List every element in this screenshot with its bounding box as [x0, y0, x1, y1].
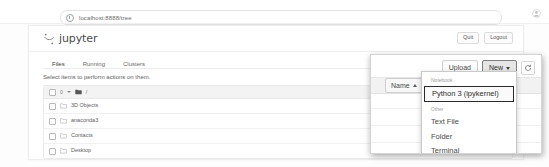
file-name[interactable]: anaconda3: [71, 118, 98, 124]
quit-button[interactable]: Quit: [457, 32, 479, 44]
chevron-down-icon[interactable]: [67, 91, 71, 93]
menu-item-text-file[interactable]: Text File: [422, 115, 516, 129]
folder-icon: [60, 103, 67, 109]
refresh-icon[interactable]: [521, 61, 535, 75]
menu-group-notebook: Notebook: [422, 75, 516, 86]
jupyter-header: jupyter Quit Logout: [29, 26, 523, 52]
menu-item-python3[interactable]: Python 3 (ipykernel): [424, 86, 514, 102]
folder-icon: [60, 148, 67, 154]
jupyter-logo-icon: [43, 33, 55, 45]
header-actions: Quit Logout: [457, 32, 513, 44]
folder-icon: [60, 133, 67, 139]
breadcrumb[interactable]: /: [86, 90, 87, 95]
menu-item-folder[interactable]: Folder: [422, 130, 516, 144]
jupyter-logo-text: jupyter: [59, 32, 97, 45]
folder-icon: [60, 118, 67, 124]
chevron-down-icon: [506, 67, 510, 70]
menu-item-terminal[interactable]: Terminal: [422, 144, 516, 154]
row-checkbox[interactable]: [49, 103, 56, 110]
file-name[interactable]: Contacts: [71, 133, 93, 139]
folder-icon: [75, 89, 82, 95]
select-items-hint: Select items to perform actions on them.: [43, 74, 150, 80]
row-checkbox[interactable]: [49, 148, 56, 155]
sort-ascending-icon: [413, 84, 417, 87]
overlay-name-label: Name: [391, 82, 410, 89]
row-checkbox[interactable]: [49, 133, 56, 140]
overlay-name-column-header[interactable]: Name: [385, 78, 425, 93]
logout-button[interactable]: Logout: [484, 32, 513, 44]
screenshot-root: localhost:8888/tree jupyter: [0, 0, 549, 167]
overlay-new-label: New: [489, 64, 503, 71]
magnified-overlay-panel: Upload New Name Notebook Python 3 (ipyke…: [370, 54, 542, 154]
jupyter-brand[interactable]: jupyter: [43, 32, 97, 45]
chrome-divider: [0, 23, 549, 24]
browser-chrome: localhost:8888/tree: [0, 0, 549, 24]
profile-avatar-icon[interactable]: [532, 9, 541, 18]
menu-group-other: Other: [422, 104, 516, 115]
info-circle-icon[interactable]: [66, 14, 74, 22]
row-checkbox[interactable]: [49, 118, 56, 125]
url-text: localhost:8888/tree: [79, 15, 132, 21]
select-all-checkbox[interactable]: [49, 89, 56, 96]
new-dropdown-menu: Notebook Python 3 (ipykernel) Other Text…: [421, 71, 517, 154]
file-name[interactable]: Desktop: [71, 148, 91, 154]
file-name[interactable]: 3D Objects: [71, 103, 98, 109]
selected-count: 0: [60, 90, 63, 95]
